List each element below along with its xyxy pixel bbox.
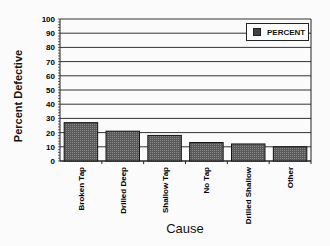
y-tick-label: 70 bbox=[46, 58, 55, 67]
y-tick-label: 50 bbox=[46, 86, 55, 95]
y-tick-label: 100 bbox=[42, 15, 56, 24]
x-tick-label: Broken Tap bbox=[77, 167, 86, 211]
y-tick-label: 90 bbox=[46, 29, 55, 38]
y-tick-label: 60 bbox=[46, 72, 55, 81]
y-tick-label: 20 bbox=[46, 129, 55, 138]
bar bbox=[64, 123, 97, 161]
y-tick-label: 30 bbox=[46, 114, 55, 123]
bar bbox=[148, 135, 181, 161]
legend-swatch-icon bbox=[253, 28, 261, 36]
y-tick-label: 80 bbox=[46, 43, 55, 52]
bar bbox=[106, 131, 139, 161]
y-axis-title: Percent Defective bbox=[12, 46, 24, 146]
x-tick-label: Shallow Tap bbox=[161, 167, 170, 213]
x-axis-title: Cause bbox=[60, 221, 310, 236]
x-tick-label: Drilled Shallow bbox=[244, 166, 253, 224]
bar bbox=[273, 147, 306, 161]
y-tick-label: 10 bbox=[46, 143, 55, 152]
x-tick-label: No Tap bbox=[202, 167, 211, 194]
legend: PERCENT bbox=[246, 23, 309, 41]
y-tick-label: 40 bbox=[46, 100, 55, 109]
bar bbox=[190, 143, 223, 161]
x-tick-label: Drilled Deep bbox=[119, 167, 128, 214]
bar bbox=[232, 144, 265, 161]
y-tick-label: 0 bbox=[51, 157, 56, 166]
x-tick-label: Other bbox=[286, 167, 295, 188]
legend-label: PERCENT bbox=[267, 28, 305, 37]
